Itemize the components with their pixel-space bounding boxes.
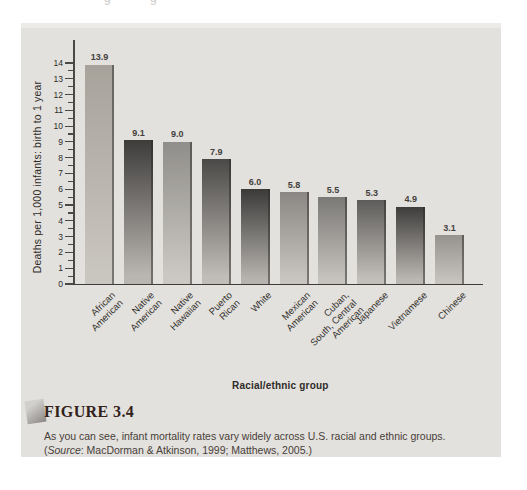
y-tick-label: 4 bbox=[41, 216, 63, 226]
y-minor-tick bbox=[68, 197, 73, 198]
x-category-label: Vietnamese bbox=[386, 290, 429, 333]
bar-native-american bbox=[124, 140, 153, 284]
y-major-tick bbox=[65, 126, 73, 127]
bar-puerto-rican bbox=[202, 159, 231, 284]
bar-value-label: 5.8 bbox=[274, 180, 314, 190]
y-tick-label: 9 bbox=[41, 137, 63, 147]
cropped-text-fragment: g g bbox=[98, 0, 188, 5]
bar-value-label: 9.0 bbox=[157, 129, 197, 139]
y-major-tick bbox=[65, 268, 73, 269]
y-minor-tick bbox=[68, 118, 73, 119]
bar-chinese bbox=[435, 235, 464, 284]
bar-value-label: 5.5 bbox=[313, 185, 353, 195]
y-minor-tick bbox=[68, 228, 73, 229]
y-tick-label: 3 bbox=[41, 232, 63, 242]
bar-white bbox=[241, 189, 270, 284]
bar-african-american bbox=[85, 65, 114, 284]
y-tick-label: 14 bbox=[41, 58, 63, 68]
x-category-label: Puerto Rican bbox=[207, 290, 242, 325]
x-axis-title: Racial/ethnic group bbox=[232, 380, 329, 391]
x-category-label: White bbox=[249, 290, 274, 315]
bar-value-label: 13.9 bbox=[80, 52, 120, 62]
y-major-tick bbox=[65, 94, 73, 95]
y-major-tick bbox=[65, 189, 73, 190]
y-tick-label: 5 bbox=[41, 200, 63, 210]
y-tick-label: 0 bbox=[41, 279, 63, 289]
y-minor-tick bbox=[68, 244, 73, 245]
y-minor-tick bbox=[68, 102, 73, 103]
bar-cuban-south-central-american bbox=[318, 197, 347, 284]
caption-text: As you can see, infant mortality rates v… bbox=[44, 430, 446, 442]
x-category-label: Chinese bbox=[436, 290, 468, 322]
y-minor-tick bbox=[68, 149, 73, 150]
y-tick-label: 2 bbox=[41, 247, 63, 257]
y-tick-label: 12 bbox=[41, 90, 63, 100]
y-tick-label: 13 bbox=[41, 74, 63, 84]
y-minor-tick bbox=[68, 70, 73, 71]
figure-panel: Deaths per 1,000 infants: birth to 1 yea… bbox=[21, 23, 501, 457]
y-tick-label: 8 bbox=[41, 153, 63, 163]
figure-caption: As you can see, infant mortality rates v… bbox=[44, 430, 496, 457]
y-tick-label: 7 bbox=[41, 168, 63, 178]
cropped-letter: g bbox=[104, 0, 111, 5]
y-minor-tick bbox=[68, 86, 73, 87]
bar-japanese bbox=[357, 200, 386, 284]
bar-native-hawaiian bbox=[163, 142, 192, 284]
bar-value-label: 7.9 bbox=[196, 147, 236, 157]
y-tick-label: 10 bbox=[41, 121, 63, 131]
y-axis-line bbox=[73, 40, 75, 285]
y-tick-label: 1 bbox=[41, 263, 63, 273]
y-minor-tick bbox=[68, 260, 73, 261]
y-major-tick bbox=[65, 62, 73, 63]
caption-source: (Source: MacDorman & Atkinson, 1999; Mat… bbox=[44, 444, 496, 458]
y-minor-tick bbox=[68, 212, 73, 213]
y-major-tick bbox=[65, 141, 73, 142]
panel-top-highlight bbox=[21, 23, 501, 28]
bar-value-label: 4.9 bbox=[391, 194, 431, 204]
y-minor-tick bbox=[68, 165, 73, 166]
y-major-tick bbox=[65, 204, 73, 205]
y-major-tick bbox=[65, 252, 73, 253]
y-major-tick bbox=[65, 283, 73, 284]
y-major-tick bbox=[65, 173, 73, 174]
bar-mexican-american bbox=[280, 192, 309, 284]
bar-vietnamese bbox=[396, 207, 425, 284]
y-minor-tick bbox=[68, 276, 73, 277]
y-major-tick bbox=[65, 236, 73, 237]
x-category-label: African American bbox=[82, 290, 125, 333]
bar-value-label: 6.0 bbox=[235, 177, 275, 187]
y-tick-label: 6 bbox=[41, 184, 63, 194]
y-tick-label: 11 bbox=[41, 105, 63, 115]
figure-label: FIGURE 3.4 bbox=[44, 403, 134, 421]
y-major-tick bbox=[65, 110, 73, 111]
bar-value-label: 9.1 bbox=[118, 128, 158, 138]
x-category-label: Native Hawaiian bbox=[161, 290, 203, 332]
y-minor-tick bbox=[68, 133, 73, 134]
y-major-tick bbox=[65, 157, 73, 158]
bar-value-label: 3.1 bbox=[430, 223, 470, 233]
bar-value-label: 5.3 bbox=[352, 188, 392, 198]
y-major-tick bbox=[65, 220, 73, 221]
cropped-letter: g bbox=[150, 0, 157, 5]
y-minor-tick bbox=[68, 181, 73, 182]
x-category-label: Native American bbox=[121, 290, 164, 333]
y-major-tick bbox=[65, 78, 73, 79]
source-word: Source bbox=[48, 444, 81, 456]
page: g g Deaths per 1,000 infants: birth to 1… bbox=[0, 0, 527, 490]
